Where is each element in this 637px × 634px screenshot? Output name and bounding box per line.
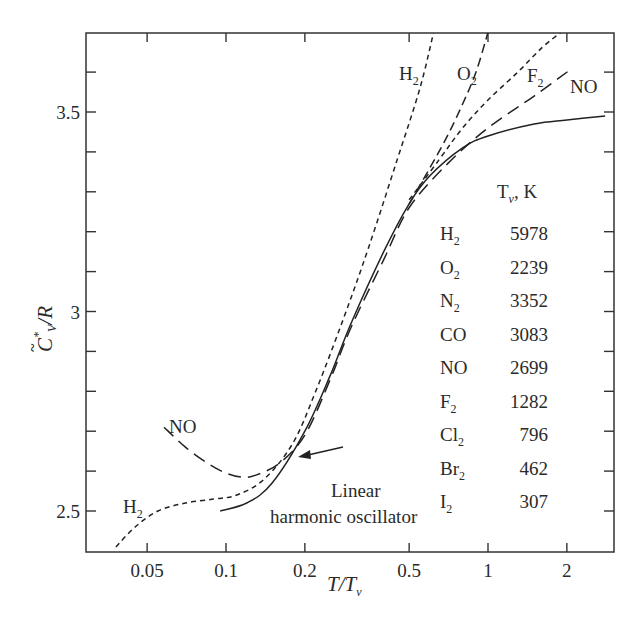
y-tick-label: 3 xyxy=(71,302,81,323)
legend-value: 3352 xyxy=(510,290,548,311)
x-tick-label: 2 xyxy=(562,560,572,581)
legend-species: Br2 xyxy=(440,458,465,483)
x-tick-label: 0.2 xyxy=(293,560,317,581)
legend-value: 1282 xyxy=(510,391,548,412)
legend-species: O2 xyxy=(440,257,460,282)
legend-value: 307 xyxy=(520,491,549,512)
y-axis-title: C*V/R ~ xyxy=(24,306,59,352)
x-tick-label: 1 xyxy=(483,560,493,581)
label-h2-top: H2 xyxy=(399,63,419,88)
heat-capacity-chart: 0.050.10.20.512 2.533.5 H2 O2 F2 NO NO H… xyxy=(0,0,637,634)
label-harmonic-oscillator: harmonic oscillator xyxy=(270,506,418,527)
legend-species: Cl2 xyxy=(440,424,464,449)
legend-species: H2 xyxy=(440,223,460,248)
label-h2-left: H2 xyxy=(123,496,143,521)
legend-species: N2 xyxy=(440,290,460,315)
legend-value: 462 xyxy=(520,458,549,479)
legend-species: NO xyxy=(440,357,467,378)
svg-text:~: ~ xyxy=(24,343,41,352)
x-tick-label: 0.1 xyxy=(214,560,238,581)
curve-h2 xyxy=(116,32,434,547)
curve-linear-harmonic-oscillator xyxy=(220,116,605,511)
curve-o2 xyxy=(409,32,488,204)
label-no-top: NO xyxy=(570,76,597,97)
label-f2-top: F2 xyxy=(527,65,544,90)
x-tick-label: 0.5 xyxy=(397,560,421,581)
legend-species: CO xyxy=(440,324,466,345)
legend-header: Tν, K xyxy=(497,181,537,206)
legend-value: 5978 xyxy=(510,223,548,244)
arrow-icon xyxy=(298,447,343,459)
legend-value: 796 xyxy=(520,424,549,445)
y-tick-label: 2.5 xyxy=(56,501,80,522)
legend-value: 3083 xyxy=(510,324,548,345)
x-tick-label: 0.05 xyxy=(131,560,164,581)
legend-value: 2239 xyxy=(510,257,548,278)
legend-value: 2699 xyxy=(510,357,548,378)
legend-table: Tν, K H25978O22239N23352CO3083NO2699F212… xyxy=(440,181,548,516)
y-tick-label: 3.5 xyxy=(56,102,80,123)
label-o2-top: O2 xyxy=(457,63,477,88)
legend-species: F2 xyxy=(440,391,457,416)
label-linear: Linear xyxy=(331,480,381,501)
label-no-left: NO xyxy=(169,416,196,437)
legend-species: I2 xyxy=(440,491,452,516)
x-axis-title: T/Tν xyxy=(327,572,362,599)
